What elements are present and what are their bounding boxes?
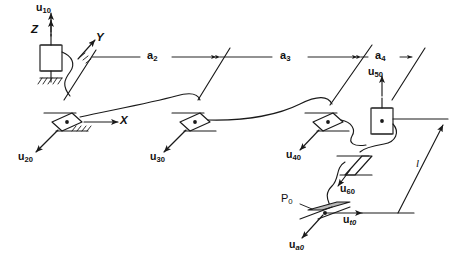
x-axis-hatch bbox=[72, 126, 91, 131]
label-u10: u10 bbox=[36, 2, 51, 13]
flexible-link-u30-u40 bbox=[208, 98, 332, 120]
diagram-canvas bbox=[0, 0, 469, 258]
revolute-joint-u30 bbox=[164, 113, 216, 152]
revolute-joint-u20 bbox=[36, 113, 88, 152]
prismatic-joint-u10 bbox=[38, 34, 62, 84]
label-z-axis: Z bbox=[31, 24, 38, 36]
witness-line-a3a4 bbox=[330, 45, 372, 105]
label-x-axis: X bbox=[120, 115, 128, 127]
y-axis bbox=[78, 40, 95, 63]
label-u30: u30 bbox=[150, 151, 165, 162]
label-ua0: ua0 bbox=[289, 239, 304, 250]
label-a2: a2 bbox=[147, 50, 157, 61]
label-a4: a4 bbox=[375, 50, 385, 61]
kinematic-chain-diagram: u10 Z Y X a2 a3 a4 u20 u30 u40 u50 u60 P… bbox=[0, 0, 469, 258]
ground-hatch-u10 bbox=[38, 78, 62, 84]
label-a3: a3 bbox=[280, 50, 290, 61]
label-u50: u50 bbox=[368, 66, 383, 77]
flexible-link-u40-u50 bbox=[341, 120, 366, 146]
label-ut0: ut0 bbox=[343, 214, 356, 225]
witness-line-a2a3 bbox=[198, 48, 230, 100]
witness-line-a4-end bbox=[392, 48, 425, 100]
label-l: l bbox=[416, 158, 419, 169]
label-u20: u20 bbox=[18, 151, 33, 162]
label-u60: u60 bbox=[340, 183, 355, 194]
label-y-axis: Y bbox=[96, 32, 104, 44]
length-dimension-l bbox=[398, 125, 443, 213]
revolute-joint-u40 bbox=[300, 113, 349, 150]
label-p0: P0 bbox=[281, 193, 293, 204]
prismatic-joint-u50 bbox=[371, 76, 448, 134]
label-u40: u40 bbox=[286, 149, 301, 160]
end-effector-p0 bbox=[300, 202, 414, 238]
